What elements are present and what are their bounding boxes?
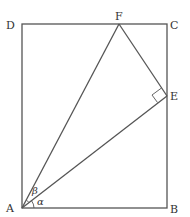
beta-arc xyxy=(26,200,29,203)
label-e: E xyxy=(170,90,178,103)
label-alpha: α xyxy=(37,196,44,207)
label-d: D xyxy=(6,19,15,32)
segment-ae xyxy=(22,96,167,208)
label-c: C xyxy=(170,19,178,32)
segment-ef xyxy=(119,24,167,96)
label-a: A xyxy=(5,202,15,215)
rectangle-abcd xyxy=(22,24,167,208)
geometry-diagram: D F C E A B α β xyxy=(0,0,190,217)
label-b: B xyxy=(170,203,178,216)
alpha-arc xyxy=(32,201,35,208)
segment-af xyxy=(22,24,119,208)
label-beta: β xyxy=(31,185,38,196)
label-f: F xyxy=(115,10,123,23)
right-angle-marker xyxy=(152,88,162,103)
